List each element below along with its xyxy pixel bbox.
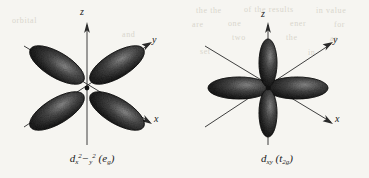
caption-paren-close: ) — [289, 152, 293, 164]
axis-label-x: x — [154, 113, 158, 124]
orbital-panel-dxy: z y x dxy (t2g) — [185, 0, 369, 178]
caption-sup-2b: 2 — [92, 152, 96, 160]
lobe-right — [266, 77, 328, 99]
axis-label-y: y — [152, 34, 156, 45]
arrowhead-x — [323, 115, 333, 124]
lobe-upper-right — [84, 38, 150, 91]
d-orbital-figure: the theof the resultsin valueareoneenerf… — [0, 0, 369, 178]
caption-paren-close: ) — [111, 152, 115, 164]
lobe-lower-left — [24, 84, 90, 137]
lobe-lower — [259, 89, 277, 137]
axis-label-y: y — [333, 34, 337, 45]
dxy-orbital-drawing — [185, 0, 369, 150]
lobe-upper — [259, 39, 277, 87]
axis-label-z: z — [80, 6, 84, 17]
orbital-origin-node — [266, 86, 271, 91]
lobe-lower-right — [84, 84, 150, 137]
orbital-panel-dx2y2: z y x dx2−y2 (eg) — [0, 0, 184, 178]
lobe-left — [208, 77, 270, 99]
caption-dxy: dxy (t2g) — [185, 152, 369, 166]
caption-dx2y2: dx2−y2 (eg) — [0, 152, 184, 166]
dx2y2-orbital-drawing — [0, 0, 184, 150]
axis-label-z: z — [261, 8, 265, 19]
caption-sub-xy: xy — [267, 158, 273, 166]
axis-label-x: x — [335, 113, 339, 124]
arrowhead-y — [323, 42, 333, 51]
lobe-upper-left — [24, 38, 90, 91]
orbital-origin-node — [85, 86, 90, 91]
